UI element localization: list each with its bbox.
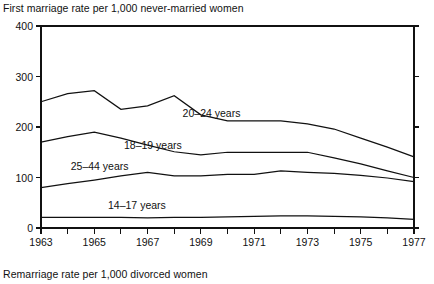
chart-title-top: First marriage rate per 1,000 never-marr… [3,2,244,14]
x-tick-label: 1975 [349,236,373,248]
x-axis-tick-labels: 19631965196719691971197319751977 [29,236,426,248]
y-axis-ticks [36,26,419,228]
x-tick-label: 1963 [29,236,53,248]
x-tick-label: 1965 [83,236,107,248]
plot-frame [41,26,414,228]
series-line-14-17 years [41,216,414,220]
series-annotation-14-17 years: 14–17 years [108,199,166,211]
x-tick-label: 1969 [189,236,213,248]
x-axis-ticks [41,228,414,234]
series-line-20-24 years [41,91,414,157]
x-tick-label: 1977 [402,236,426,248]
x-tick-label: 1971 [242,236,266,248]
plot-border [41,26,414,228]
y-axis-tick-labels: 0100200300400 [15,20,33,234]
y-tick-label: 100 [15,172,33,184]
series-annotation-18-19 years: 18–19 years [124,139,182,151]
x-tick-label: 1967 [136,236,160,248]
chart-title-bottom: Remarriage rate per 1,000 divorced women [3,268,208,280]
y-tick-label: 0 [27,222,33,234]
series-line-25-44 years [41,171,414,188]
y-tick-label: 200 [15,121,33,133]
x-tick-label: 1973 [296,236,320,248]
series-annotation-25-44 years: 25–44 years [71,160,129,172]
chart-figure: First marriage rate per 1,000 never-marr… [0,0,434,284]
y-tick-label: 300 [15,71,33,83]
y-tick-label: 400 [15,20,33,32]
series-annotations-group: 20–24 years18–19 years25–44 years14–17 y… [71,107,241,211]
line-chart-plot: 0100200300400 19631965196719691971197319… [0,0,434,284]
series-annotation-20-24 years: 20–24 years [183,107,241,119]
